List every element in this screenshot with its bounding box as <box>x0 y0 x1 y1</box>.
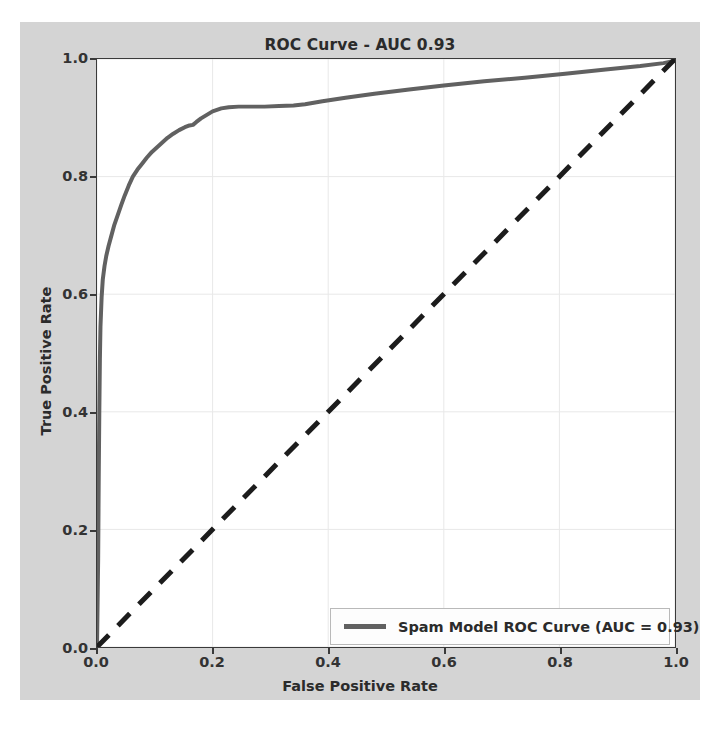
y-axis-label: True Positive Rate <box>38 251 54 471</box>
data-series-group <box>97 59 675 647</box>
y-tick-mark <box>90 58 96 60</box>
x-tick-mark <box>212 648 214 654</box>
series-line-1 <box>97 59 675 647</box>
x-axis-label: False Positive Rate <box>20 678 700 694</box>
x-tick-mark <box>328 648 330 654</box>
x-tick-label: 1.0 <box>663 654 689 670</box>
plot-area <box>96 58 676 648</box>
x-tick-mark <box>676 648 678 654</box>
figure-canvas: ROC Curve - AUC 0.93 0.00.20.40.60.81.0 … <box>20 22 700 700</box>
chart-legend: Spam Model ROC Curve (AUC = 0.93) <box>330 608 670 645</box>
figure-inner: ROC Curve - AUC 0.93 0.00.20.40.60.81.0 … <box>20 22 700 700</box>
legend-entry-label: Spam Model ROC Curve (AUC = 0.93) <box>398 619 699 635</box>
plot-svg <box>97 59 675 647</box>
x-tick-mark <box>444 648 446 654</box>
y-tick-label: 0.2 <box>32 522 88 538</box>
x-tick-label: 0.2 <box>199 654 225 670</box>
y-tick-label: 0.8 <box>32 168 88 184</box>
legend-line-swatch <box>344 624 386 630</box>
y-tick-mark <box>90 530 96 532</box>
x-tick-label: 0.8 <box>547 654 573 670</box>
x-tick-mark <box>96 648 98 654</box>
chart-title: ROC Curve - AUC 0.93 <box>20 36 700 54</box>
x-tick-label: 0.0 <box>83 654 109 670</box>
y-tick-label: 0.0 <box>32 640 88 656</box>
x-tick-label: 0.4 <box>315 654 341 670</box>
y-tick-mark <box>90 648 96 650</box>
y-tick-mark <box>90 176 96 178</box>
y-tick-mark <box>90 412 96 414</box>
y-tick-label: 1.0 <box>32 50 88 66</box>
x-tick-mark <box>560 648 562 654</box>
y-tick-mark <box>90 294 96 296</box>
x-tick-label: 0.6 <box>431 654 457 670</box>
